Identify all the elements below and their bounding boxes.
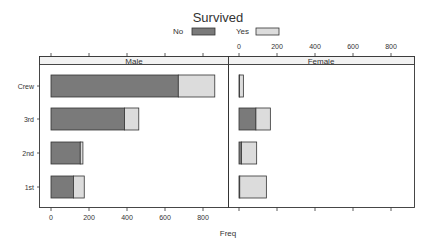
x-tick-label: 0	[49, 214, 53, 221]
legend-label-yes: Yes	[236, 27, 249, 36]
x-tick-label: 400	[121, 214, 133, 221]
y-tick-label: 3rd	[24, 116, 34, 123]
bar-male-crew-no	[51, 75, 178, 97]
bar-male-3rd-yes	[125, 108, 139, 130]
x-tick-label: 800	[385, 43, 397, 50]
legend-swatch-no	[192, 28, 215, 35]
y-tick-label: Crew	[18, 83, 35, 90]
bar-male-2nd-no	[51, 142, 80, 164]
bar-male-1st-yes	[73, 176, 84, 198]
x-axis-label: Freq	[220, 229, 236, 238]
titanic-barchart: Survived No Yes Male Female Crew3rd2nd1s…	[0, 0, 437, 246]
strip-label-male: Male	[125, 57, 143, 66]
bar-male-3rd-no	[51, 108, 125, 130]
bar-male-1st-no	[51, 176, 73, 198]
x-tick-label: 0	[237, 43, 241, 50]
bars-layer	[51, 75, 270, 198]
x-tick-label: 400	[309, 43, 321, 50]
bar-female-2nd-yes	[241, 142, 256, 164]
bar-female-3rd-no	[239, 108, 256, 130]
legend-label-no: No	[173, 27, 184, 36]
bar-female-3rd-yes	[256, 108, 270, 130]
strip-label-female: Female	[308, 57, 335, 66]
legend-swatch-yes	[256, 28, 279, 35]
bar-male-crew-yes	[178, 75, 214, 97]
y-tick-label: 2nd	[22, 150, 34, 157]
x-tick-label: 600	[347, 43, 359, 50]
y-tick-label: 1st	[25, 184, 34, 191]
x-tick-label: 200	[83, 214, 95, 221]
bar-female-crew-yes	[240, 75, 244, 97]
bar-female-1st-yes	[240, 176, 267, 198]
x-tick-label: 600	[159, 214, 171, 221]
bar-male-2nd-yes	[80, 142, 83, 164]
x-tick-label: 200	[271, 43, 283, 50]
legend-title: Survived	[193, 10, 244, 25]
x-tick-label: 800	[197, 214, 209, 221]
